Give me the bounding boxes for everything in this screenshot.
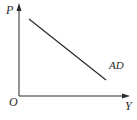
origin-label: O	[9, 96, 18, 108]
x-axis-arrow-icon	[122, 94, 130, 99]
x-axis-label: Y	[125, 100, 132, 112]
ad-curve-label: AD	[109, 60, 124, 71]
ad-curve	[29, 19, 106, 80]
ad-diagram: P O Y AD	[0, 0, 137, 120]
y-axis-label: P	[6, 4, 13, 16]
y-axis-arrow-icon	[17, 3, 22, 11]
